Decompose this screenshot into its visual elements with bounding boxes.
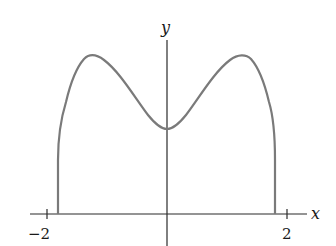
x-axis-label: x: [311, 204, 320, 223]
y-axis-label: y: [160, 18, 171, 37]
x-tick-label-pos2: 2: [282, 225, 292, 243]
function-graph: y x −2 2: [0, 0, 336, 246]
x-tick-label-neg2: −2: [28, 225, 50, 243]
